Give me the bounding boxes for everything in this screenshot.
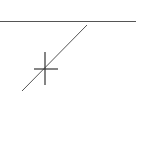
drawing-canvas[interactable] (0, 0, 144, 167)
crosshair-cursor-icon (34, 52, 58, 85)
diagonal-line[interactable] (22, 25, 87, 91)
